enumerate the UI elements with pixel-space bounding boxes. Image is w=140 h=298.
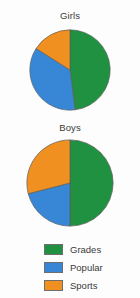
pie-chart-figure: Girls Boys Grades Popular Sports [0, 0, 140, 298]
legend-item-popular: Popular [44, 259, 140, 275]
pie-girls-svg [29, 29, 111, 111]
pie-slice-grades [70, 140, 113, 226]
legend-swatch-popular [44, 262, 63, 273]
chart-legend: Grades Popular Sports [44, 241, 140, 295]
pie-chart-girls [29, 29, 111, 111]
legend-swatch-grades [44, 244, 63, 255]
legend-swatch-sports [44, 280, 63, 291]
pie-slice-grades [70, 30, 110, 110]
legend-label-grades: Grades [70, 244, 101, 255]
pie-boys-svg [26, 139, 114, 227]
legend-item-sports: Sports [44, 277, 140, 293]
legend-label-sports: Sports [70, 280, 97, 291]
pie-boys-slices [27, 140, 113, 226]
chart-title-girls: Girls [0, 10, 140, 21]
pie-girls-slices [30, 30, 110, 110]
legend-item-grades: Grades [44, 241, 140, 257]
chart-title-boys: Boys [0, 122, 140, 133]
pie-chart-boys [26, 139, 114, 227]
legend-label-popular: Popular [70, 262, 103, 273]
